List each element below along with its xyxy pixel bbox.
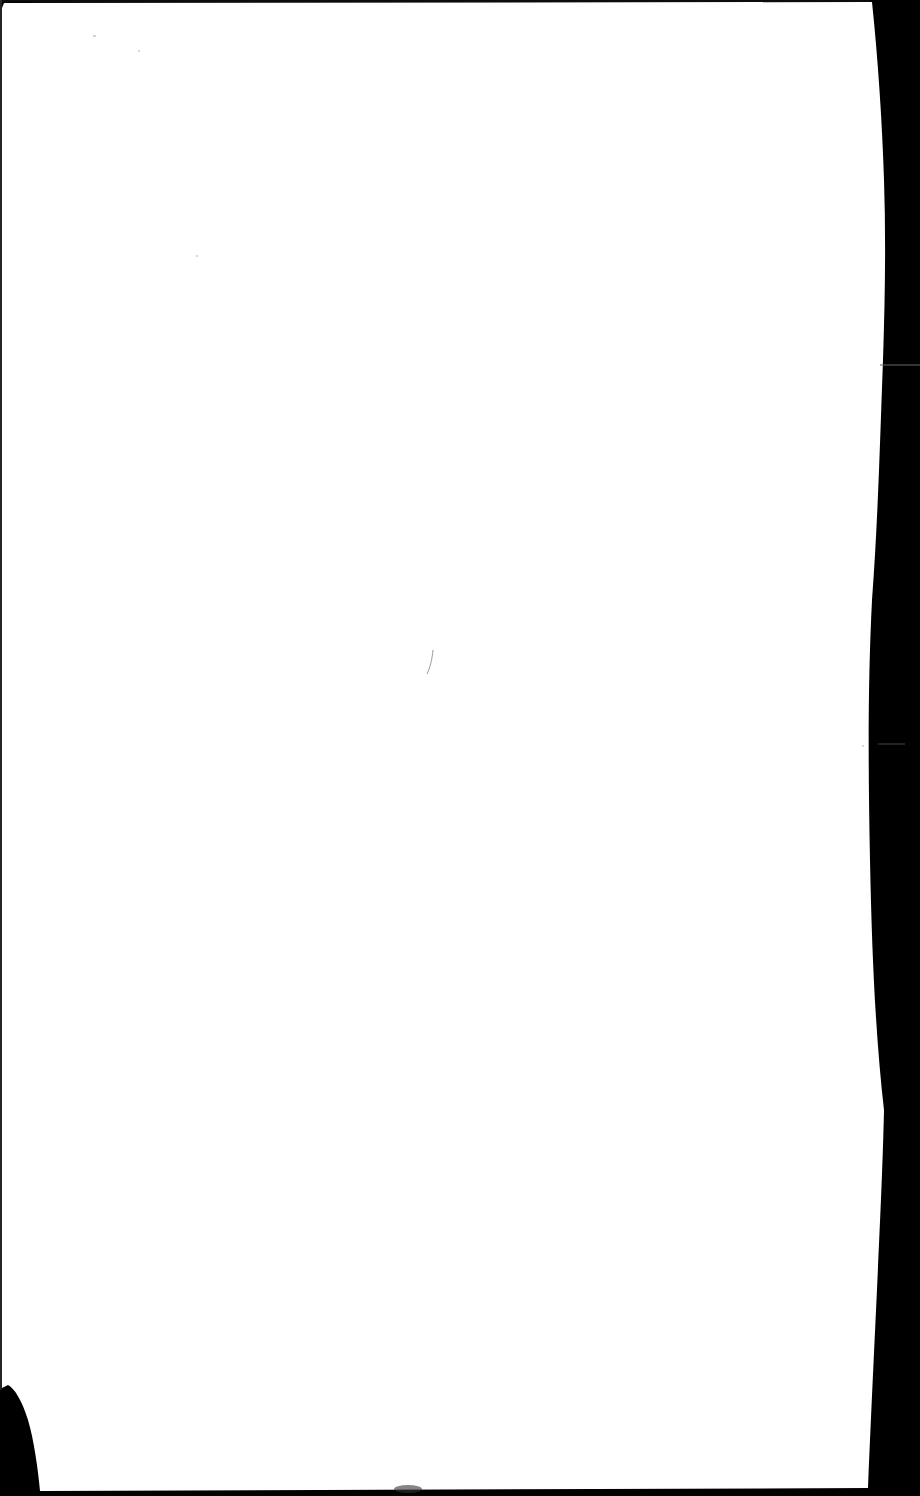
dust-speck (138, 50, 140, 52)
scanned-document (0, 0, 920, 1496)
blank-paper-page (0, 0, 920, 1496)
dust-speck (196, 255, 198, 257)
dust-speck (93, 35, 96, 37)
dust-speck (862, 745, 864, 747)
